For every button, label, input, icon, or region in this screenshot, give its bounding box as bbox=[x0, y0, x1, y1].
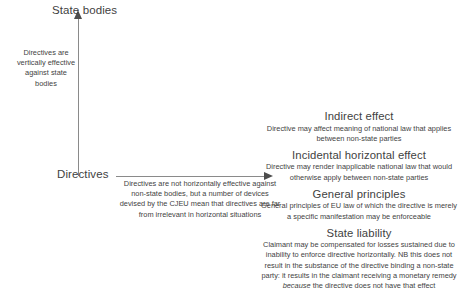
doctrine-body: General principles of EU law of which th… bbox=[258, 201, 460, 221]
x-axis-title: Directives bbox=[57, 168, 108, 180]
doctrine-title: Incidental horizontal effect bbox=[258, 149, 460, 162]
vertical-effect-annotation: Directives are vertically effective agai… bbox=[14, 48, 78, 89]
doctrine-body-part1: Claimant may be compensated for losses s… bbox=[261, 240, 456, 280]
doctrine-title: State liability bbox=[258, 227, 460, 240]
y-axis-line bbox=[78, 18, 79, 176]
doctrine-title: General principles bbox=[258, 188, 460, 201]
y-axis-title: State bodies bbox=[52, 4, 117, 16]
doctrine-block-list: Indirect effect Directive may affect mea… bbox=[258, 110, 460, 291]
doctrine-block-general-principles: General principles General principles of… bbox=[258, 188, 460, 222]
doctrine-body: Claimant may be compensated for losses s… bbox=[258, 240, 460, 291]
doctrine-block-state-liability: State liability Claimant may be compensa… bbox=[258, 227, 460, 292]
x-axis-line bbox=[116, 176, 266, 177]
doctrine-block-incidental-horizontal-effect: Incidental horizontal effect Directive m… bbox=[258, 149, 460, 183]
doctrine-body: Directive may affect meaning of national… bbox=[258, 124, 460, 144]
doctrine-body-part2: the directive does not have that effect bbox=[311, 281, 436, 290]
doctrine-title: Indirect effect bbox=[258, 110, 460, 123]
doctrine-body-emphasis: because bbox=[283, 281, 311, 290]
diagram-canvas: State bodies Directives Directives are v… bbox=[0, 0, 465, 308]
doctrine-block-indirect-effect: Indirect effect Directive may affect mea… bbox=[258, 110, 460, 144]
doctrine-body: Directive may render inapplicable nation… bbox=[258, 162, 460, 182]
